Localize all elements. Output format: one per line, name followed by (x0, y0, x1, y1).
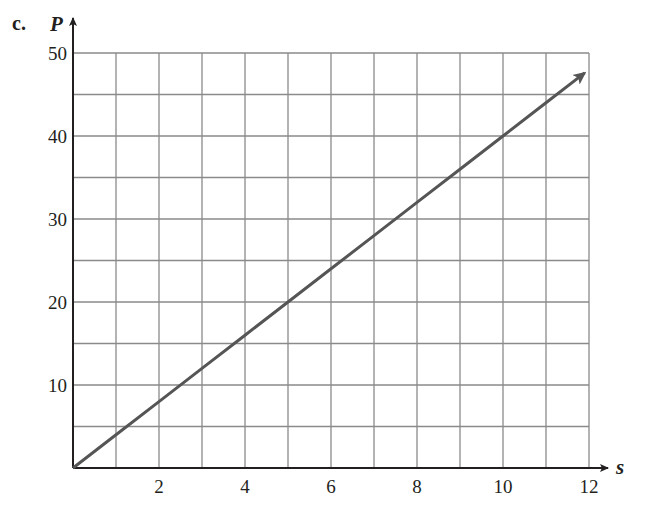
tick-labels: 246810121020304050 (48, 43, 599, 497)
y-tick-label: 20 (48, 292, 67, 313)
y-tick-label: 30 (48, 209, 67, 230)
y-tick-label: 10 (48, 375, 67, 396)
data-series (73, 73, 585, 468)
y-tick-label: 50 (48, 43, 67, 64)
axes (73, 18, 608, 468)
x-tick-label: 6 (326, 476, 336, 497)
x-tick-label: 10 (494, 476, 513, 497)
series-line (73, 73, 585, 468)
y-tick-label: 40 (48, 126, 67, 147)
x-axis-label: s (615, 455, 624, 479)
x-tick-label: 8 (412, 476, 422, 497)
x-tick-label: 12 (580, 476, 599, 497)
part-label: c. (12, 12, 26, 34)
y-axis-label: P (49, 12, 63, 36)
x-tick-label: 2 (154, 476, 164, 497)
line-chart: 246810121020304050 c. P s (0, 0, 654, 512)
grid-lines (73, 53, 589, 468)
x-tick-label: 4 (240, 476, 250, 497)
